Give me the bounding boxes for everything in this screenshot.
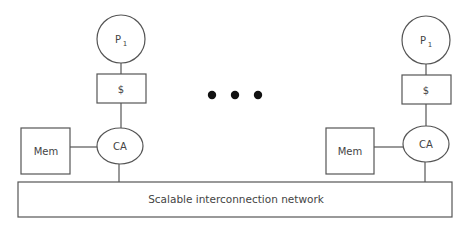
ellipsis-dot [254,91,262,99]
processor-subscript: 1 [123,40,127,48]
network-label: Scalable interconnection network [148,193,325,205]
cache-label: $ [118,84,124,95]
cache-node: $ [402,75,451,104]
ellipsis-dot [231,91,239,99]
multiprocessor-diagram: Scalable interconnection network P 1 $ M… [0,0,469,227]
cache-node: $ [97,74,146,103]
ellipsis-dot [208,91,216,99]
node-left: P 1 $ Mem CA [21,15,146,182]
ellipsis-dots [208,91,262,99]
processor-node: P 1 [97,15,145,63]
memory-label: Mem [338,146,363,157]
comm-assist-label: CA [419,139,433,150]
comm-assist-node: CA [403,126,449,162]
comm-assist-node: CA [97,128,143,164]
memory-label: Mem [34,146,59,157]
memory-node: Mem [21,128,70,174]
cache-label: $ [423,85,429,96]
processor-label: P [115,34,121,45]
processor-label: P [420,35,426,46]
processor-subscript: 1 [428,41,432,49]
memory-node: Mem [326,128,374,174]
node-right: P 1 $ Mem CA [326,16,451,182]
interconnection-network: Scalable interconnection network [18,182,452,217]
processor-node: P 1 [402,16,450,64]
comm-assist-label: CA [113,141,127,152]
